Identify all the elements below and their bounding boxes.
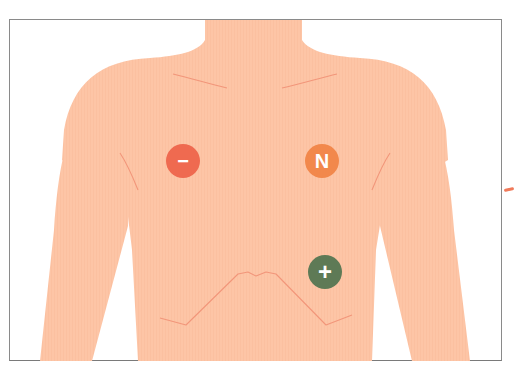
- electrode-neutral: N: [305, 144, 339, 178]
- plus-icon: +: [318, 260, 332, 284]
- minus-icon: −: [177, 151, 189, 171]
- neutral-label: N: [315, 151, 329, 171]
- torso: [62, 20, 448, 361]
- electrode-positive: +: [308, 255, 342, 289]
- electrode-negative: −: [166, 144, 200, 178]
